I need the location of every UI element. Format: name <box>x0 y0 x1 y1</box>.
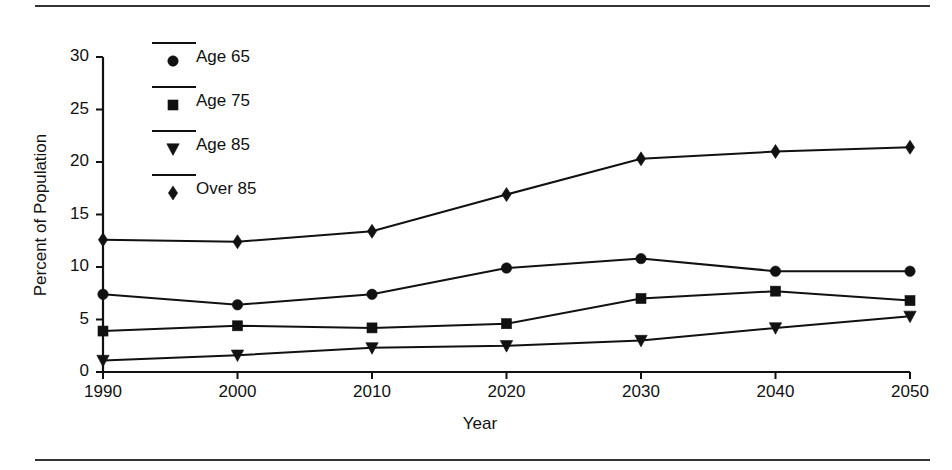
legend-marker-shape <box>167 144 179 156</box>
legend-marker-shape <box>168 186 177 200</box>
legend-circle-icon <box>162 50 184 72</box>
data-point-age-65-2050 <box>905 266 915 276</box>
legend-item-age-85: Age 85 <box>148 126 338 170</box>
legend-label: Age 65 <box>196 47 250 67</box>
x-tick-label-2000: 2000 <box>198 382 278 402</box>
data-point-age-65-2010 <box>367 289 377 299</box>
y-axis-label: Percent of Population <box>31 105 51 325</box>
data-point-age-65-2030 <box>636 253 646 263</box>
legend-label: Age 85 <box>196 135 250 155</box>
data-point-age-75-2050 <box>905 296 915 306</box>
x-tick-label-2040: 2040 <box>736 382 816 402</box>
legend-label: Age 75 <box>196 91 250 111</box>
data-point-age-75-1990 <box>98 326 108 336</box>
chart-legend: Age 65Age 75Age 85Over 85 <box>148 38 338 214</box>
y-tick-label-15: 15 <box>45 204 89 224</box>
data-point-age-65-2000 <box>232 300 242 310</box>
x-axis-label: Year <box>390 414 570 434</box>
y-tick-label-10: 10 <box>45 256 89 276</box>
data-point-age-75-2030 <box>636 294 646 304</box>
y-tick-label-5: 5 <box>45 309 89 329</box>
data-point-over-85-2010 <box>367 224 376 238</box>
legend-line-swatch <box>152 174 196 176</box>
legend-line-swatch <box>152 130 196 132</box>
legend-line-swatch <box>152 42 196 44</box>
legend-diamond-icon <box>162 182 184 204</box>
data-point-over-85-2050 <box>905 140 914 154</box>
data-point-age-75-2040 <box>771 286 781 296</box>
data-point-age-75-2000 <box>233 321 243 331</box>
legend-square-icon <box>162 94 184 116</box>
legend-item-over-85: Over 85 <box>148 170 338 214</box>
data-point-over-85-2030 <box>636 152 645 166</box>
x-tick-label-2010: 2010 <box>332 382 412 402</box>
data-point-over-85-1990 <box>98 233 107 247</box>
legend-marker-shape <box>168 100 178 110</box>
data-point-age-65-2040 <box>770 266 780 276</box>
y-tick-label-25: 25 <box>45 99 89 119</box>
data-point-over-85-2040 <box>771 145 780 159</box>
y-tick-label-20: 20 <box>45 151 89 171</box>
y-tick-label-0: 0 <box>45 361 89 381</box>
legend-marker-shape <box>168 56 178 66</box>
data-point-over-85-2020 <box>502 188 511 202</box>
x-tick-label-1990: 1990 <box>63 382 143 402</box>
plot-area: 051015202530 199020002010202020302040205… <box>0 0 952 470</box>
data-point-age-75-2010 <box>367 323 377 333</box>
legend-item-age-75: Age 75 <box>148 82 338 126</box>
data-point-age-65-1990 <box>98 289 108 299</box>
series-age-75 <box>98 286 915 336</box>
x-tick-label-2020: 2020 <box>467 382 547 402</box>
legend-item-age-65: Age 65 <box>148 38 338 82</box>
legend-line-swatch <box>152 86 196 88</box>
data-point-age-75-2020 <box>502 319 512 329</box>
series-age-65 <box>98 253 915 310</box>
data-point-over-85-2000 <box>233 235 242 249</box>
x-tick-label-2050: 2050 <box>870 382 950 402</box>
legend-triangle-down-icon <box>162 138 184 160</box>
x-tick-label-2030: 2030 <box>601 382 681 402</box>
legend-label: Over 85 <box>196 179 256 199</box>
figure-container: 051015202530 199020002010202020302040205… <box>0 0 952 470</box>
data-point-age-65-2020 <box>501 263 511 273</box>
y-tick-label-30: 30 <box>45 46 89 66</box>
